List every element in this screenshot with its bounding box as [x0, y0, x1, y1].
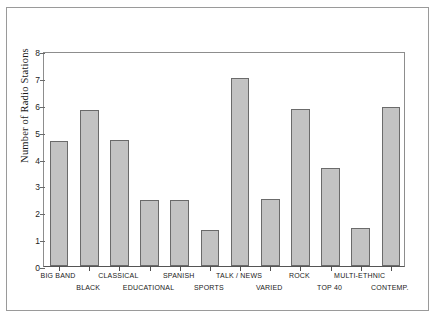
y-tick-mark — [40, 134, 45, 135]
y-tick-label: 5 — [35, 129, 40, 139]
bar — [321, 168, 340, 266]
y-tick-mark — [40, 187, 45, 188]
y-tick-label: 7 — [35, 75, 40, 85]
bar — [201, 230, 220, 266]
bar — [80, 110, 99, 266]
bar — [231, 78, 250, 266]
x-tick-label: SPANISH — [163, 272, 195, 279]
y-axis-title: Number of Radio Stations — [19, 26, 30, 186]
y-tick-label: 0 — [35, 263, 40, 273]
bar — [170, 200, 189, 266]
x-tick-label: EDUCATIONAL — [123, 284, 174, 291]
y-tick-label: 8 — [35, 48, 40, 58]
y-tick-mark — [40, 161, 45, 162]
x-tick-label: TOP 40 — [317, 284, 342, 291]
x-tick-label: VARIED — [256, 284, 283, 291]
x-tick-label: BLACK — [76, 284, 100, 291]
y-tick-mark — [40, 214, 45, 215]
x-tick-label: SPORTS — [194, 284, 224, 291]
y-tick-label: 4 — [35, 156, 40, 166]
x-tick-label: BIG BAND — [41, 272, 76, 279]
y-tick-mark — [40, 80, 45, 81]
y-tick-label: 1 — [35, 236, 40, 246]
y-tick-label: 6 — [35, 102, 40, 112]
y-tick-mark — [40, 241, 45, 242]
x-tick-label: CONTEMP. — [371, 284, 409, 291]
bar — [50, 141, 69, 266]
x-tick-label: MULTI-ETHNIC — [334, 272, 385, 279]
bar — [261, 199, 280, 266]
bar — [351, 228, 370, 266]
y-tick-mark — [40, 107, 45, 108]
bar — [140, 200, 159, 266]
bar — [291, 109, 310, 266]
y-tick-label: 3 — [35, 182, 40, 192]
y-tick-label: 2 — [35, 209, 40, 219]
x-tick-label: CLASSICAL — [98, 272, 138, 279]
y-tick-mark — [40, 53, 45, 54]
x-axis-labels: BIG BANDBLACKCLASSICALEDUCATIONALSPANISH… — [43, 268, 405, 308]
plot-area: 012345678 — [43, 52, 405, 267]
x-tick-label: ROCK — [289, 272, 310, 279]
bar — [110, 140, 129, 266]
chart-figure: Number of Radio Stations 012345678 BIG B… — [0, 0, 436, 319]
x-tick-label: TALK / NEWS — [216, 272, 262, 279]
bar — [382, 107, 401, 266]
